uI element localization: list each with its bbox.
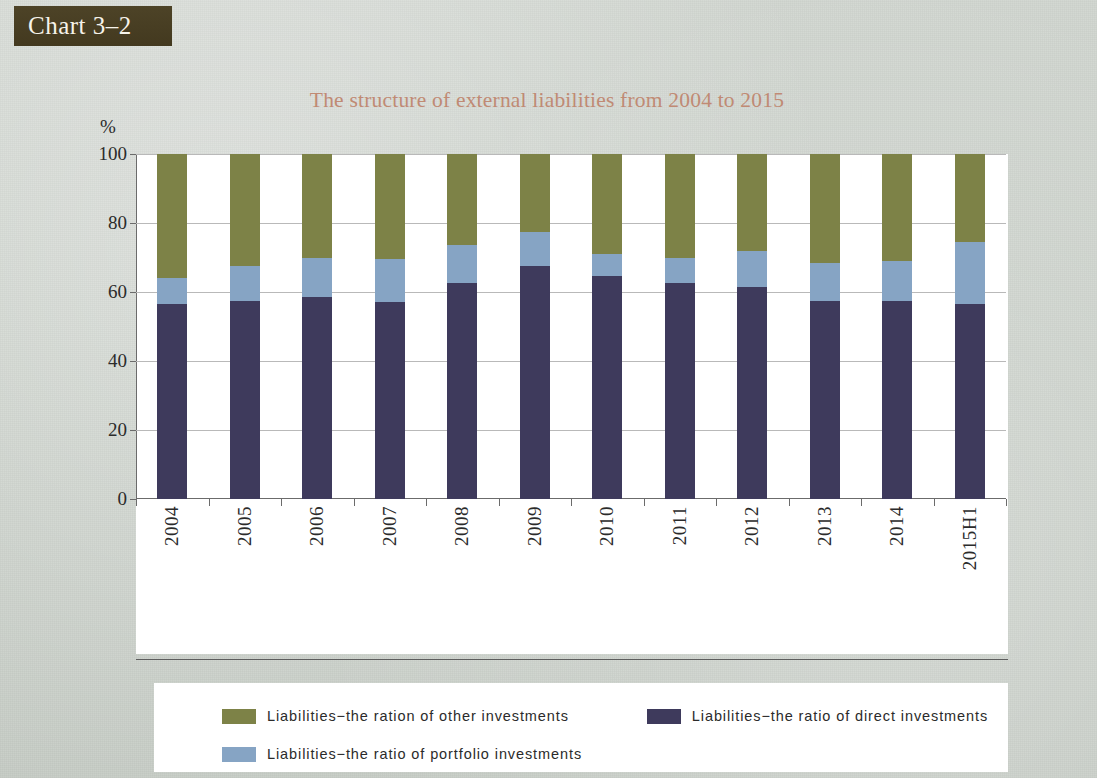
x-axis-label-text: 2015H1: [959, 506, 981, 570]
bar-segment-2007-s0: [375, 302, 405, 499]
x-axis-label-text: 2007: [379, 506, 401, 546]
bar-segment-2011-s1: [665, 258, 695, 284]
bar-segment-2014-s2: [882, 154, 912, 261]
bar-segment-2004-s0: [157, 304, 187, 499]
x-tick-mark-6: [571, 499, 572, 506]
legend-divider: [136, 659, 1008, 660]
x-tick-mark-2: [281, 499, 282, 506]
bar-segment-2010-s0: [592, 276, 622, 499]
x-tick-mark-11: [934, 499, 935, 506]
x-tick-mark-0: [136, 499, 137, 506]
bar-segment-2010-s2: [592, 154, 622, 254]
bar-segment-2013-s0: [810, 301, 840, 499]
bar-segment-2009-s1: [520, 232, 550, 267]
bar-segment-2008-s1: [447, 245, 477, 283]
bar-segment-2006-s1: [302, 258, 332, 298]
x-tick-mark-3: [354, 499, 355, 506]
bar-segment-2011-s0: [665, 283, 695, 499]
bar-2008: [447, 154, 477, 499]
chart-number-badge: Chart 3–2: [14, 6, 172, 46]
x-axis-label-2015H1: 2015H1: [955, 506, 985, 616]
x-axis-label-text: 2010: [596, 506, 618, 546]
x-axis-label-text: 2011: [669, 506, 691, 545]
x-tick-mark-12: [1006, 499, 1007, 506]
legend-item-direct-investments: Liabilities−the ratio of direct investme…: [647, 708, 988, 724]
bar-2014: [882, 154, 912, 499]
x-axis-labels: 2004200520062007200820092010201120122013…: [136, 506, 1006, 616]
x-axis-label-text: 2008: [451, 506, 473, 546]
bar-segment-2007-s1: [375, 259, 405, 302]
bar-segment-2012-s1: [737, 251, 767, 287]
legend-swatch-direct-investments: [647, 709, 681, 724]
chart-card: The structure of external liabilities fr…: [18, 46, 1076, 761]
legend-item-other-investments: Liabilities−the ration of other investme…: [222, 708, 569, 724]
bar-segment-2008-s0: [447, 283, 477, 499]
x-tick-mark-5: [499, 499, 500, 506]
x-axis-label-2009: 2009: [520, 506, 550, 616]
y-axis-unit-label: %: [100, 116, 116, 138]
bar-segment-2015H1-s2: [955, 154, 985, 242]
bar-2009: [520, 154, 550, 499]
x-tick-mark-9: [789, 499, 790, 506]
x-tick-mark-7: [644, 499, 645, 506]
bar-2015H1: [955, 154, 985, 499]
y-tick-label-100: 100: [99, 143, 128, 165]
x-axis-label-2007: 2007: [375, 506, 405, 616]
legend-label-direct-investments: Liabilities−the ratio of direct investme…: [692, 708, 988, 724]
y-tick-label-80: 80: [108, 212, 127, 234]
legend-row-2: Liabilities−the ratio of portfolio inves…: [154, 735, 1008, 773]
plot-area: 020406080100: [136, 154, 1006, 499]
x-tick-mark-1: [209, 499, 210, 506]
bar-segment-2005-s0: [230, 301, 260, 499]
bar-2011: [665, 154, 695, 499]
bar-segment-2014-s0: [882, 301, 912, 499]
x-axis-label-2014: 2014: [882, 506, 912, 616]
x-axis-label-text: 2005: [234, 506, 256, 546]
x-tick-mark-4: [426, 499, 427, 506]
legend-label-other-investments: Liabilities−the ration of other investme…: [267, 708, 569, 724]
bar-2004: [157, 154, 187, 499]
bar-segment-2015H1-s0: [955, 304, 985, 499]
x-axis-label-text: 2004: [161, 506, 183, 546]
x-axis-label-2010: 2010: [592, 506, 622, 616]
bar-segment-2013-s2: [810, 154, 840, 263]
x-axis-label-2006: 2006: [302, 506, 332, 616]
bar-segment-2011-s2: [665, 154, 695, 258]
y-tick-label-40: 40: [108, 350, 127, 372]
bar-segment-2012-s0: [737, 287, 767, 499]
y-tick-label-0: 0: [118, 488, 128, 510]
bar-2012: [737, 154, 767, 499]
bar-segment-2006-s0: [302, 297, 332, 499]
x-axis-label-text: 2009: [524, 506, 546, 546]
bar-2010: [592, 154, 622, 499]
bar-segment-2008-s2: [447, 154, 477, 245]
x-axis-label-2013: 2013: [810, 506, 840, 616]
x-axis-label-text: 2013: [814, 506, 836, 546]
x-axis-label-2004: 2004: [157, 506, 187, 616]
x-axis-tick-marks: [136, 499, 1006, 506]
legend-row-1: Liabilities−the ration of other investme…: [154, 697, 1008, 735]
bar-segment-2010-s1: [592, 254, 622, 276]
x-axis-label-2008: 2008: [447, 506, 477, 616]
chart-legend: Liabilities−the ration of other investme…: [154, 683, 1008, 772]
bar-segment-2004-s1: [157, 278, 187, 304]
bar-segment-2006-s2: [302, 154, 332, 258]
bar-2006: [302, 154, 332, 499]
bar-segment-2004-s2: [157, 154, 187, 278]
chart-number-label: Chart 3–2: [28, 12, 132, 40]
bar-segment-2014-s1: [882, 261, 912, 301]
bar-segment-2005-s2: [230, 154, 260, 266]
bar-segment-2009-s0: [520, 266, 550, 499]
bar-series-group: [136, 154, 1006, 499]
bar-segment-2007-s2: [375, 154, 405, 259]
x-axis-label-text: 2014: [886, 506, 908, 546]
x-axis-label-2005: 2005: [230, 506, 260, 616]
bar-2013: [810, 154, 840, 499]
y-tick-label-20: 20: [108, 419, 127, 441]
legend-label-portfolio-investments: Liabilities−the ratio of portfolio inves…: [267, 746, 582, 762]
x-tick-mark-8: [716, 499, 717, 506]
bar-segment-2012-s2: [737, 154, 767, 251]
y-tick-label-60: 60: [108, 281, 127, 303]
legend-swatch-other-investments: [222, 709, 256, 724]
x-axis-label-2012: 2012: [737, 506, 767, 616]
